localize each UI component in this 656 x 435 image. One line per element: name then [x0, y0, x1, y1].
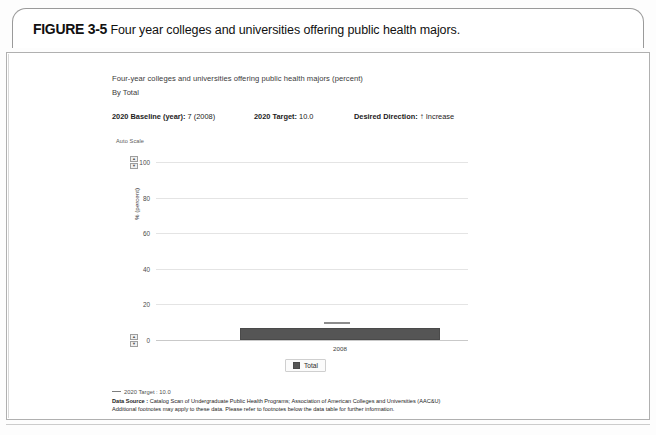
y-tick-label-20: 20	[128, 301, 150, 308]
data-source-value: Catalog Scan of Undergraduate Public Hea…	[150, 398, 441, 404]
baseline-label: 2020 Baseline (year):	[112, 112, 186, 121]
y-tick-label-60: 60	[128, 230, 150, 237]
legend-swatch-total	[293, 362, 300, 369]
arrow-up-icon: ↑	[420, 113, 424, 121]
footer-target-text: 2020 Target : 10.0	[124, 389, 171, 395]
page-bottom-rule	[6, 424, 650, 425]
figure-number: FIGURE 3-5	[33, 21, 107, 37]
target-value: 10.0	[299, 112, 313, 121]
chart-subtitle: By Total	[112, 88, 139, 97]
gridline-0	[156, 340, 468, 341]
data-source-label: Data Source :	[112, 398, 148, 404]
chart-title: Four-year colleges and universities offe…	[112, 74, 363, 83]
gridline-100	[156, 162, 468, 163]
footer-data-source: Data Source : Catalog Scan of Undergradu…	[112, 397, 572, 405]
target-label: 2020 Target:	[254, 112, 297, 121]
gridline-60	[156, 233, 468, 234]
x-axis-tick-2008: 2008	[240, 345, 440, 352]
plot-area: % (percent) ▲ ▼ ▲ ▼ 020406080100 2008	[128, 162, 528, 340]
chart-widget: Four-year colleges and universities offe…	[100, 62, 540, 412]
figure-caption: FIGURE 3-5 Four year colleges and univer…	[33, 21, 460, 37]
direction-label: Desired Direction:	[354, 112, 418, 121]
y-tick-label-100: 100	[128, 159, 150, 166]
bar-total-2008[interactable]	[240, 328, 440, 340]
target-line-marker	[324, 322, 350, 324]
footer-target-legend: 2020 Target : 10.0	[112, 389, 572, 395]
chart-meta-row: 2020 Baseline (year): 7 (2008) 2020 Targ…	[112, 112, 532, 124]
figure-title: Four year colleges and universities offe…	[110, 23, 460, 37]
target-meta: 2020 Target: 10.0	[254, 112, 313, 121]
direction-meta: Desired Direction: ↑ Increase	[354, 112, 454, 121]
gridline-20	[156, 304, 468, 305]
gridline-80	[156, 198, 468, 199]
legend-label-total: Total	[304, 362, 318, 369]
baseline-meta: 2020 Baseline (year): 7 (2008)	[112, 112, 215, 121]
baseline-value: 7 (2008)	[188, 112, 216, 121]
y-axis-label: % (percent)	[133, 188, 140, 220]
chart-footer: 2020 Target : 10.0 Data Source : Catalog…	[112, 389, 572, 413]
footer-note: Additional footnotes may apply to these …	[112, 405, 572, 413]
auto-scale-label[interactable]: Auto Scale	[116, 138, 144, 144]
gridline-40	[156, 269, 468, 270]
target-dash-icon	[112, 391, 121, 392]
y-tick-label-80: 80	[128, 194, 150, 201]
direction-value: Increase	[426, 112, 454, 121]
y-tick-label-40: 40	[128, 265, 150, 272]
y-tick-label-0: 0	[128, 337, 150, 344]
chart-legend[interactable]: Total	[285, 359, 326, 372]
figure-caption-box: FIGURE 3-5 Four year colleges and univer…	[12, 8, 644, 48]
